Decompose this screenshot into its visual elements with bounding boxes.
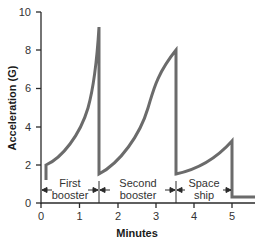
acceleration-line	[46, 27, 255, 197]
phase-second-line1: Second	[119, 177, 156, 189]
y-tick-10: 10	[19, 6, 31, 18]
y-tick-8: 8	[25, 44, 31, 56]
x-tick-0: 0	[38, 210, 44, 222]
y-axis	[36, 12, 41, 204]
x-tick-2: 2	[115, 210, 121, 222]
x-tick-4: 4	[191, 210, 197, 222]
phase-second-line2: booster	[120, 189, 157, 201]
y-tick-labels: 10 8 6 4 2 0	[19, 6, 31, 209]
phase-first-line2: booster	[52, 189, 89, 201]
x-tick-3: 3	[153, 210, 159, 222]
y-tick-4: 4	[25, 121, 31, 133]
x-tick-labels: 0 1 2 3 4 5	[38, 210, 235, 222]
x-axis-title: Minutes	[116, 227, 158, 239]
phase-labels: First booster Second booster Space ship	[52, 177, 220, 201]
phase-spaceship-line2: ship	[194, 189, 214, 201]
acceleration-chart: 10 8 6 4 2 0 0 1 2 3 4 5 Minutes Acceler…	[0, 0, 263, 245]
x-tick-5: 5	[229, 210, 235, 222]
y-tick-2: 2	[25, 159, 31, 171]
phase-spaceship-line1: Space	[188, 177, 219, 189]
x-tick-1: 1	[76, 210, 82, 222]
y-axis-title: Acceleration (G)	[6, 65, 18, 150]
phase-first-line1: First	[59, 177, 80, 189]
y-tick-6: 6	[25, 82, 31, 94]
x-axis	[41, 203, 255, 208]
y-tick-0: 0	[25, 197, 31, 209]
